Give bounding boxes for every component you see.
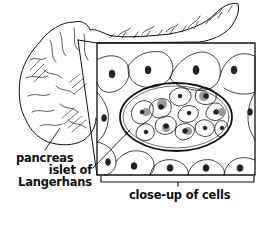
closeup-bracket bbox=[101, 176, 254, 186]
zoom-projection-lines bbox=[78, 40, 97, 175]
pancreas-hatching bbox=[30, 60, 86, 132]
islet-label-line2: Langerhans bbox=[18, 176, 92, 188]
islet-stipple bbox=[142, 91, 226, 135]
cell-nuclei bbox=[102, 66, 253, 172]
islet-leader-line bbox=[93, 130, 130, 168]
closeup-label: close-up of cells bbox=[129, 189, 230, 201]
pancreas-leader-line bbox=[45, 128, 60, 150]
